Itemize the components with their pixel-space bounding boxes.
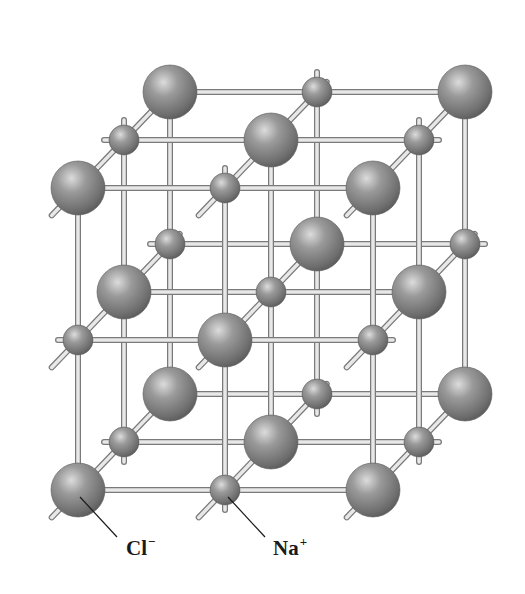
sodium-ion (256, 277, 286, 307)
sodium-charge: + (300, 534, 307, 549)
sodium-ion (302, 379, 332, 409)
chloride-ion (346, 463, 400, 517)
chloride-ion (438, 65, 492, 119)
sodium-ion (450, 229, 480, 259)
sodium-ion (109, 427, 139, 457)
sodium-symbol: Na (273, 536, 299, 560)
nacl-lattice-diagram: Cl− Na+ (0, 0, 525, 594)
chloride-ion (143, 367, 197, 421)
chloride-symbol: Cl (126, 536, 147, 560)
chloride-ion (438, 367, 492, 421)
sodium-ion (302, 77, 332, 107)
lattice-svg (0, 0, 525, 594)
sodium-label: Na+ (273, 534, 307, 561)
label-pointers (80, 497, 265, 537)
chloride-ion (198, 313, 252, 367)
chloride-ion (244, 415, 298, 469)
chloride-label: Cl− (126, 534, 155, 561)
sodium-ion (358, 325, 388, 355)
chloride-ion (244, 113, 298, 167)
chloride-ion (392, 265, 446, 319)
chloride-ion (97, 265, 151, 319)
sodium-ion (155, 229, 185, 259)
sodium-ion (404, 427, 434, 457)
ions (51, 65, 492, 517)
sodium-ion (109, 125, 139, 155)
chloride-charge: − (148, 534, 155, 549)
sodium-ion (210, 173, 240, 203)
chloride-ion (346, 161, 400, 215)
chloride-ion (290, 217, 344, 271)
chloride-ion (51, 161, 105, 215)
sodium-ion (210, 475, 240, 505)
chloride-ion (143, 65, 197, 119)
chloride-ion (51, 463, 105, 517)
sodium-ion (404, 125, 434, 155)
sodium-ion (63, 325, 93, 355)
